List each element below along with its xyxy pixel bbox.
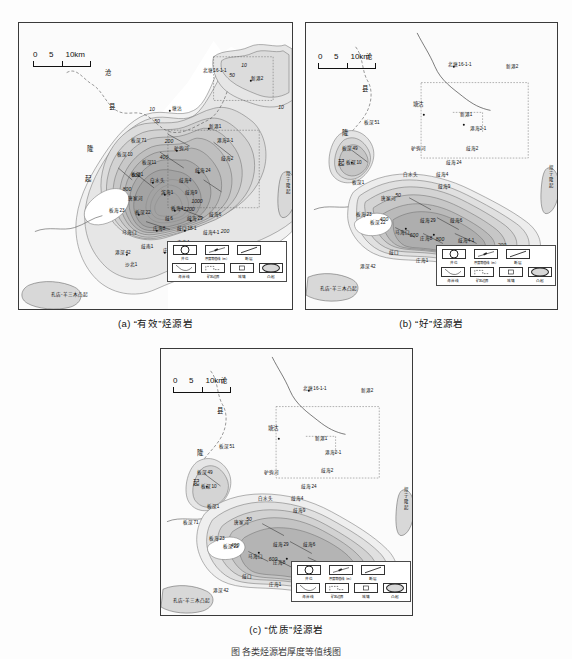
well-label: 板深22 <box>370 221 385 226</box>
scale-bar-graphic <box>318 63 376 69</box>
contour-label-10b: 10 <box>241 63 247 68</box>
legend-row-1: 井位 厚度等值线（m） 断层 <box>295 565 407 581</box>
legend-item-uplift[interactable]: 凸起 <box>258 263 283 279</box>
thickness-contour-icon <box>474 249 498 259</box>
well-label: 港海2-1 <box>470 127 487 132</box>
well-label: 庄海8 <box>420 237 433 242</box>
contour-label-1000: 1000 <box>191 199 202 204</box>
legend-label: 矿区边界 <box>207 274 219 279</box>
well-label: 歧海9 <box>185 191 198 196</box>
mining-boundary-icon <box>470 267 494 277</box>
well-label: 歧海4-1 <box>203 231 220 236</box>
legend-label: 厚度等值线（m） <box>329 576 353 581</box>
well-label: 新港1 <box>209 125 222 130</box>
well-label: 白水头 <box>403 173 418 178</box>
panel-c-caption: (c) “优质”烃源岩 <box>160 622 413 636</box>
map-panel-b[interactable]: 0 5 10km 沧 县 隆 起 孔店-羊三木凸起 埕宁隆起 50 200 40… <box>305 22 558 310</box>
well-label: 庄海1 <box>269 583 282 588</box>
uplift-icon <box>528 267 552 277</box>
legend-row-1: 井位 厚度等值线（m） 断层 <box>440 249 552 265</box>
legend-label: 凸起 <box>536 278 544 283</box>
well-label: 歧海4 <box>436 173 449 178</box>
well-label: 港深42 <box>115 251 130 256</box>
legend-item-uplift[interactable]: 凸起 <box>527 267 552 283</box>
legend-label: 城镇 <box>238 274 246 279</box>
legend-label: 凸起 <box>391 594 399 599</box>
legend-label: 城镇 <box>507 278 515 283</box>
legend-item-town[interactable]: 城镇 <box>229 263 254 279</box>
well-label: 塘沽 <box>268 426 278 431</box>
uplift-icon <box>383 583 407 593</box>
legend-item-coastline[interactable]: 海岸线 <box>295 583 320 599</box>
scale-bar-a: 0 5 10km <box>33 51 91 67</box>
map-panel-a[interactable]: 0 5 10km 沧 县 隆 起 孔店-羊三木凸起 埕宁隆起 10 10 10 … <box>18 22 293 310</box>
legend-label: 海岸线 <box>178 274 190 279</box>
well-label: 马海口 <box>248 555 263 560</box>
figure-root: 0 5 10km 沧 县 隆 起 孔店-羊三木凸起 埕宁隆起 10 10 10 … <box>0 0 572 659</box>
legend-item-contour[interactable]: 厚度等值线（m） <box>203 245 231 261</box>
coastline-icon <box>441 267 465 277</box>
legend-a: 井位 厚度等值线（m） 断层 <box>167 241 287 282</box>
well-label: 板深10 <box>201 485 216 490</box>
legend-item-mining-boundary[interactable]: 矿区边界 <box>469 267 494 283</box>
well-label: 庄海8 <box>153 227 166 232</box>
legend-item-fault[interactable]: 断层 <box>359 565 387 581</box>
well-label: 歧海9 <box>293 509 306 514</box>
legend-row-1: 井位 厚度等值线（m） 断层 <box>171 245 283 261</box>
mining-boundary-icon <box>325 583 349 593</box>
well-label: 板海23 <box>209 537 224 542</box>
uplift-label-long: 隆 <box>196 449 202 457</box>
well-label: 马海口 <box>122 231 137 236</box>
legend-label: 凸起 <box>267 274 275 279</box>
legend-item-fault[interactable]: 断层 <box>235 245 263 261</box>
legend-item-well[interactable]: 井位 <box>171 245 199 261</box>
contour-label-50: 50 <box>154 119 160 124</box>
well-label: 歧口 <box>389 251 399 256</box>
legend-item-uplift[interactable]: 凸起 <box>382 583 407 599</box>
map-panel-c[interactable]: 0 5 10km 沧 县 隆 起 孔店-羊三木凸起 埕宁隆起 50 200 40… <box>160 348 413 616</box>
well-label: 歧海24 <box>301 485 316 490</box>
legend-label: 断层 <box>369 576 377 581</box>
legend-item-contour[interactable]: 厚度等值线（m） <box>327 565 355 581</box>
uplift-label-cang: 沧 <box>104 69 110 77</box>
legend-item-well[interactable]: 井位 <box>440 249 468 265</box>
legend-item-town[interactable]: 城镇 <box>353 583 378 599</box>
well-label: 新港1 <box>460 113 473 118</box>
uplift-label-kongdian: 孔店-羊三木凸起 <box>51 293 88 298</box>
legend-item-coastline[interactable]: 海岸线 <box>440 267 465 283</box>
legend-item-fault[interactable]: 断层 <box>504 249 532 265</box>
legend-item-well[interactable]: 井位 <box>295 565 323 581</box>
well-label: 板深51 <box>364 121 379 126</box>
uplift-label-qi: 起 <box>337 159 343 167</box>
uplift-label-xian: 县 <box>361 85 367 93</box>
well-label: 歧口 <box>242 575 252 580</box>
uplift-label-long: 隆 <box>341 129 347 137</box>
well-label: 新港1 <box>315 437 328 442</box>
uplift-label-chengning: 埕宁隆起 <box>548 165 552 189</box>
well-label: 歧海29 <box>420 219 435 224</box>
contour-label-50: 50 <box>395 193 401 198</box>
well-symbol-icon <box>173 245 197 255</box>
legend-b: 井位 厚度等值线（m） 断层 <box>436 245 556 286</box>
uplift-label-kongdian: 孔店-羊三木凸起 <box>173 599 210 604</box>
legend-label: 城镇 <box>362 594 370 599</box>
well-label: 板深51 <box>219 445 234 450</box>
fault-icon <box>237 245 261 255</box>
well-label: 板深49 <box>197 471 212 476</box>
legend-row-2: 海岸线 矿区边界 城镇 <box>440 267 552 283</box>
panel-a-inner: 0 5 10km 沧 县 隆 起 孔店-羊三木凸起 埕宁隆起 10 10 10 … <box>19 23 292 309</box>
legend-item-mining-boundary[interactable]: 矿区边界 <box>324 583 349 599</box>
legend-item-mining-boundary[interactable]: 矿区边界 <box>200 263 225 279</box>
scale-tick-5: 5 <box>189 377 193 385</box>
scale-bar-graphic <box>173 387 231 393</box>
well-label: 港海2-1 <box>325 451 342 456</box>
uplift-icon <box>259 263 283 273</box>
mining-boundary-icon <box>201 263 225 273</box>
legend-item-town[interactable]: 城镇 <box>498 267 523 283</box>
legend-item-coastline[interactable]: 海岸线 <box>171 263 196 279</box>
well-label: 驴驹河 <box>264 471 279 476</box>
well-label: 唐家河 <box>128 197 143 202</box>
well-label: 歧海2 <box>466 147 479 152</box>
thickness-contour-icon <box>205 245 229 255</box>
legend-item-contour[interactable]: 厚度等值线（m） <box>472 249 500 265</box>
